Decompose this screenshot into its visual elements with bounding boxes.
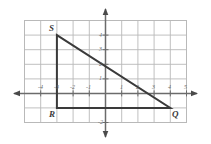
vertex-label-r: R (49, 110, 55, 119)
x-tick-label-4: 4 (168, 84, 171, 90)
x-tick-label--2: -2 (70, 84, 75, 90)
x-tick-label--1: -1 (86, 84, 91, 90)
geometry-figure: S R Q -4 -3 -2 -1 1 2 3 4 5 4 3 2 1 -2 (0, 0, 211, 144)
x-tick-label-3: 3 (152, 84, 155, 90)
x-tick-label--3: -3 (54, 84, 59, 90)
y-tick-label-2: 2 (99, 61, 102, 67)
vertex-label-s: S (49, 24, 54, 33)
x-tick-label--4: -4 (38, 84, 43, 90)
x-tick-label-5: 5 (184, 84, 187, 90)
x-tick-label-1: 1 (120, 84, 123, 90)
y-tick-label-4: 4 (99, 32, 102, 38)
coordinate-plane (0, 0, 211, 144)
vertex-label-q: Q (172, 110, 179, 119)
x-tick-label-2: 2 (136, 84, 139, 90)
y-tick-label-3: 3 (99, 46, 102, 52)
y-tick-label--2: -2 (98, 119, 103, 125)
y-tick-label-1: 1 (99, 75, 102, 81)
